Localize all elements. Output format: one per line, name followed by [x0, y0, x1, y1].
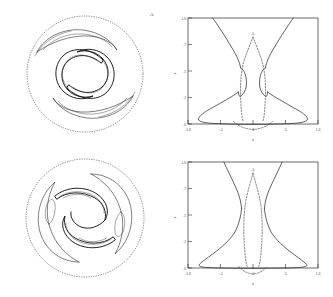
panel-b-inner-annotation: A — [252, 31, 255, 36]
panel-b-ytick-2: .5 — [183, 70, 186, 74]
panel-c-arm1-outline — [91, 174, 132, 254]
panel-c-center-hook — [71, 212, 105, 228]
panel-d-xtick-1: -.5 — [219, 272, 223, 276]
panel-b-xtick-4: 1.0 — [316, 128, 321, 132]
panel-b-y-ticks — [188, 18, 192, 124]
panel-a-boundary-circle — [27, 16, 143, 132]
panel-d-ytick-0: .0 — [183, 267, 186, 271]
panel-b-dash-left — [240, 37, 253, 122]
panel-a-label: A — [150, 12, 154, 17]
panel-d-xtick-0: -1.0 — [185, 272, 191, 276]
panel-b-lobe-right — [259, 68, 267, 97]
panel-a-svg — [0, 0, 170, 149]
panel-c-polar-map: C — [0, 148, 170, 297]
panel-b-chart: .0 .2 .5 .7 1.0 -1.0 -.5 .0 .5 1.0 x r — [170, 0, 333, 149]
panel-d-vase-left — [199, 209, 253, 269]
panel-c-arm2-blob — [45, 200, 55, 225]
panel-b-svg: .0 .2 .5 .7 1.0 -1.0 -.5 .0 .5 1.0 x r — [170, 0, 333, 149]
panel-d-frame — [188, 162, 318, 268]
panel-d-funnel-right — [264, 162, 282, 209]
figure-root: A .0 .2 .5 .7 1.0 — [0, 0, 333, 297]
panel-b-dash-right — [253, 37, 266, 122]
panel-b-xtick-3: .5 — [284, 128, 287, 132]
panel-a-polar-map: A — [0, 0, 170, 149]
panel-b-xtick-1: -.5 — [219, 128, 223, 132]
panel-b-lobe-left — [238, 68, 246, 97]
panel-b-outer-right — [265, 18, 293, 68]
panel-a-core-detail1 — [62, 55, 97, 88]
panel-d-inner-annotation: A — [252, 167, 255, 172]
panel-d-ytick-3: .7 — [183, 187, 186, 191]
panel-c-boundary-circle — [26, 159, 144, 277]
panel-c-core-arm1 — [55, 188, 107, 220]
panel-d-ytick-2: .5 — [183, 214, 186, 218]
panel-d-funnel-left — [224, 162, 242, 209]
panel-a-core-detail2 — [73, 60, 108, 93]
panel-d-ytick-1: .2 — [183, 240, 186, 244]
panel-b-xtick-2: .0 — [252, 128, 255, 132]
panel-b-ytick-0: .0 — [183, 123, 186, 127]
panel-b-xtick-0: -1.0 — [185, 128, 191, 132]
panel-b-outer-left — [213, 18, 241, 68]
panel-d-y-ticks — [188, 162, 192, 268]
panel-c-arm1-blob — [115, 212, 125, 237]
panel-a-wisp2 — [99, 92, 135, 117]
panel-b-xlabel: x — [252, 137, 254, 142]
panel-d-ylabel: r — [172, 216, 177, 218]
panel-b-ylabel: r — [172, 72, 177, 74]
panel-b-ytick-4: 1.0 — [182, 17, 187, 21]
panel-b-ytick-3: .7 — [183, 43, 186, 47]
panel-b-x-ticks — [188, 120, 318, 124]
panel-d-dash-right — [253, 173, 262, 267]
panel-d-dash-left — [244, 173, 253, 267]
panel-d-xlabel: x — [252, 281, 254, 286]
panel-d-svg: .0 .2 .5 .7 1.0 -1.0 -.5 .0 .5 1.0 x r — [170, 148, 333, 297]
panel-d-xtick-4: 1.0 — [316, 272, 321, 276]
panel-d-xtick-3: .5 — [284, 272, 287, 276]
panel-c-core-arm2 — [63, 216, 115, 248]
panel-d-vase-right — [253, 209, 307, 269]
panel-b-bell — [198, 92, 307, 124]
panel-c-arm2-outline — [38, 182, 79, 262]
panel-d-chart: .0 .2 .5 .7 1.0 -1.0 -.5 .0 .5 1.0 x r — [170, 148, 333, 297]
panel-a-wisp1 — [35, 31, 71, 56]
panel-c-svg — [0, 148, 170, 297]
panel-d-ytick-4: 1.0 — [182, 161, 187, 165]
panel-b-ytick-1: .2 — [183, 96, 186, 100]
